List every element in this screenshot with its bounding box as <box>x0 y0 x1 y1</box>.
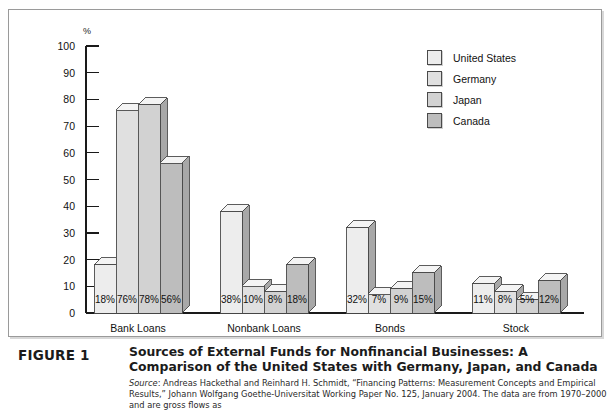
y-tick-70: 70 <box>49 121 75 131</box>
bar-value-label: 11% <box>473 294 492 305</box>
legend-swatch-united-states <box>427 50 442 65</box>
y-tick-60: 60 <box>49 148 75 158</box>
bar-value-label: 7% <box>372 294 387 305</box>
y-tick-50: 50 <box>49 175 75 185</box>
legend-swatch-japan <box>427 92 442 107</box>
legend-label-canada: Canada <box>453 115 490 127</box>
y-tick-100: 100 <box>49 41 75 51</box>
bar-value-label: 78% <box>139 294 159 305</box>
y-tick-40: 40 <box>49 201 75 211</box>
y-tick-10: 10 <box>49 281 75 291</box>
legend-item-japan[interactable]: Japan <box>427 89 587 110</box>
legend-item-germany[interactable]: Germany <box>427 68 587 89</box>
x-category-label: Stock <box>442 322 590 334</box>
bar-value-label: 32% <box>347 294 367 305</box>
legend-swatch-germany <box>427 71 442 86</box>
source-text: : Andreas Hackethal and Reinhard H. Schm… <box>129 378 607 410</box>
y-tick-90: 90 <box>49 68 75 78</box>
source-word: Source <box>129 378 158 388</box>
figure-number-label: FIGURE 1 <box>18 347 90 363</box>
y-tick-0: 0 <box>49 308 75 318</box>
bar-value-label: 15% <box>413 294 433 305</box>
bar-value-label: 8% <box>498 294 513 305</box>
chart-legend: United States Germany Japan Canada <box>427 47 587 131</box>
y-tick-80: 80 <box>49 94 75 104</box>
bar-value-label: 10% <box>243 294 263 305</box>
legend-label-united-states: United States <box>453 52 516 64</box>
y-tick-20: 20 <box>49 255 75 265</box>
bar-value-label: 38% <box>221 294 241 305</box>
legend-label-japan: Japan <box>453 94 482 106</box>
bar-value-label: 18% <box>287 294 307 305</box>
figure-caption-block: FIGURE 1 Sources of External Funds for N… <box>0 341 610 405</box>
figure-source-note: Source: Andreas Hackethal and Reinhard H… <box>129 378 607 411</box>
legend-item-canada[interactable]: Canada <box>427 110 587 131</box>
bar-value-label: 5% <box>520 294 535 305</box>
legend-item-united-states[interactable]: United States <box>427 47 587 68</box>
y-tick-30: 30 <box>49 228 75 238</box>
legend-label-germany: Germany <box>453 73 496 85</box>
legend-swatch-canada <box>427 113 442 128</box>
bar-value-label: 76% <box>117 294 137 305</box>
bar-value-label: 8% <box>268 294 283 305</box>
bar-value-label: 12% <box>539 294 559 305</box>
bar-value-label: 18% <box>95 294 115 305</box>
figure-chart-panel: % 18%76%78%56%38%10%8%18%32%7%9%15%11%8%… <box>8 9 602 337</box>
figure-title: Sources of External Funds for Nonfinanci… <box>129 345 607 374</box>
bar-value-label: 9% <box>394 294 409 305</box>
bar-value-label: 56% <box>161 294 181 305</box>
